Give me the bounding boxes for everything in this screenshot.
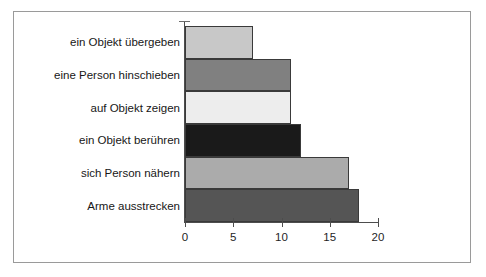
bar-row [185, 26, 378, 59]
value-axis-tick [233, 218, 234, 227]
category-label: eine Person hinschieben [10, 68, 180, 82]
value-axis-tick-label: 15 [310, 230, 350, 244]
value-axis-tick-label: 20 [358, 230, 398, 244]
category-label: auf Objekt zeigen [10, 101, 180, 115]
category-label: ein Objekt berühren [10, 133, 180, 147]
bar [185, 59, 291, 92]
bar [185, 124, 301, 157]
bar [185, 26, 253, 59]
category-label-group: ein Objekt übergebeneine Person hinschie… [8, 26, 180, 222]
category-label: sich Person nähern [10, 166, 180, 180]
bar [185, 189, 359, 222]
chart-figure: ein Objekt übergebeneine Person hinschie… [0, 0, 486, 277]
plot-area [185, 26, 378, 222]
value-axis-tick-label: 0 [165, 230, 205, 244]
bar-row [185, 157, 378, 190]
value-axis-tick [282, 218, 283, 227]
category-label: Arme ausstrecken [10, 199, 180, 213]
value-axis-tick [185, 218, 186, 227]
value-axis-tick [330, 218, 331, 227]
bar-row [185, 59, 378, 92]
bar-row [185, 91, 378, 124]
category-axis-cap-marker [179, 21, 190, 22]
bar [185, 91, 291, 124]
category-label: ein Objekt übergeben [10, 35, 180, 49]
value-axis-tick [378, 218, 379, 227]
bar [185, 157, 349, 190]
value-axis-tick-label: 10 [262, 230, 302, 244]
bar-row [185, 124, 378, 157]
value-axis-tick-label: 5 [213, 230, 253, 244]
